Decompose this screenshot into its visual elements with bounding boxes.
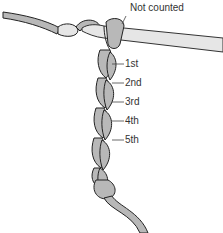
crochet-chain-diagram: Not counted 1st 2nd 3rd 4th 5th (0, 0, 223, 233)
loop-on-hook (106, 19, 124, 49)
stitch-label-2: 2nd (125, 78, 142, 88)
chain-stitch-illustration (0, 0, 223, 233)
stitch-label-5: 5th (125, 135, 139, 145)
stitch-label-1: 1st (125, 59, 138, 69)
not-counted-label: Not counted (130, 3, 184, 13)
stitch-label-4: 4th (125, 116, 139, 126)
stitch-label-3: 3rd (125, 97, 139, 107)
yarn-tail-bottom (104, 196, 148, 233)
yarn-tail (3, 12, 60, 34)
slip-knot (58, 24, 78, 36)
crochet-hook (82, 25, 223, 52)
